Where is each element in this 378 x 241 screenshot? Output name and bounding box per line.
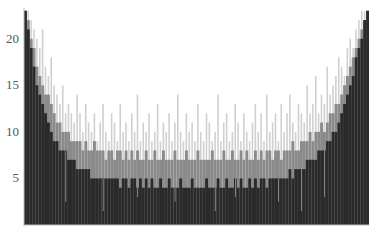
y-tick-label: 10 [6,124,19,139]
series-dark [24,11,369,225]
bar-layers [24,11,369,225]
y-tick-label: 15 [6,77,19,92]
y-tick-label: 5 [13,170,20,185]
y-axis-ticks: 5101520 [6,31,19,186]
y-tick-label: 20 [6,31,19,46]
histogram-chart: 5101520 [0,0,378,241]
